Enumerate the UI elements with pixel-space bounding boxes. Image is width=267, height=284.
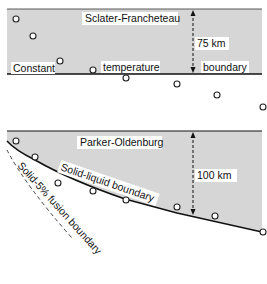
data-point-circle [90, 188, 96, 194]
data-point-circle [212, 213, 218, 219]
bottom-panel-title: Parker-Oldenburg [80, 136, 164, 148]
data-point-circle [260, 104, 266, 110]
data-point-circle [214, 92, 220, 98]
data-point-circle [13, 138, 19, 144]
data-point-circle [32, 154, 38, 160]
plate-cooling-models-diagram: Sclater-Francheteau 75 km Constant tempe… [0, 0, 267, 284]
data-point-circle [260, 229, 266, 235]
data-point-circle [174, 204, 180, 210]
data-point-circle [30, 33, 36, 39]
data-point-circle [174, 81, 180, 87]
top-thickness-label: 75 km [197, 37, 226, 49]
bottom-thickness-label: 100 km [197, 169, 232, 181]
top-panel-title: Sclater-Francheteau [85, 12, 180, 24]
constant-label: Constant [13, 62, 55, 74]
data-point-circle [57, 58, 63, 64]
data-point-circle [123, 197, 129, 203]
data-point-circle [55, 180, 61, 186]
data-point-circle [13, 16, 19, 22]
data-point-circle [123, 75, 129, 81]
data-point-circle [90, 67, 96, 73]
temperature-label: temperature [103, 61, 160, 73]
boundary-label: boundary [203, 61, 248, 73]
